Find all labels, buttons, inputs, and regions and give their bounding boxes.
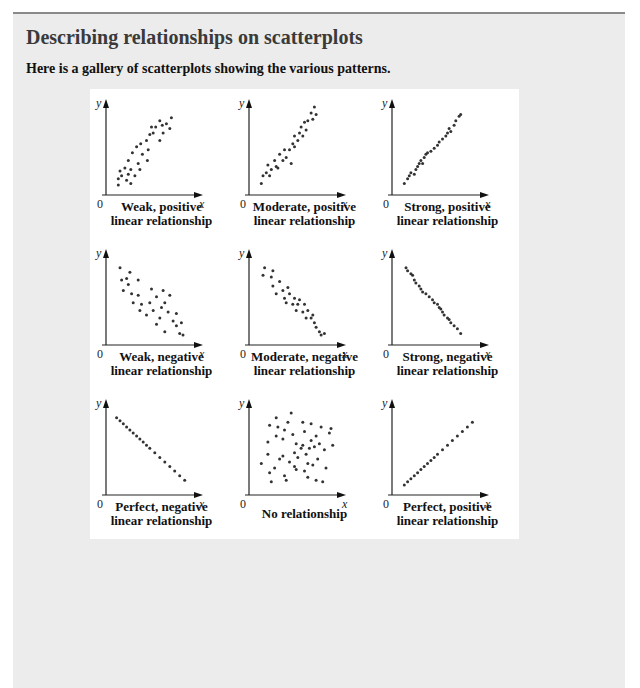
data-point <box>303 430 306 433</box>
scatterplot-caption: No relationship <box>233 507 376 521</box>
data-point <box>439 307 442 310</box>
data-point <box>147 148 150 151</box>
data-point <box>263 266 266 269</box>
y-axis-label: y <box>239 97 244 109</box>
data-point <box>448 318 451 321</box>
data-point <box>300 447 303 450</box>
data-point <box>175 324 178 327</box>
data-point <box>416 471 419 474</box>
data-point <box>260 182 263 185</box>
data-point <box>122 422 125 425</box>
data-point <box>421 162 424 165</box>
data-point <box>285 479 288 482</box>
data-point <box>131 151 134 154</box>
data-point <box>276 167 279 170</box>
data-point <box>413 173 416 176</box>
data-point <box>281 438 284 441</box>
data-point <box>145 314 148 317</box>
data-point <box>119 170 122 173</box>
data-point <box>431 298 434 301</box>
data-point <box>148 133 151 136</box>
data-point <box>321 480 324 483</box>
data-point <box>421 291 424 294</box>
y-axis-label: y <box>382 397 387 409</box>
data-point <box>154 125 157 128</box>
data-point <box>308 447 311 450</box>
data-point <box>150 125 153 128</box>
data-point <box>117 183 120 186</box>
data-point <box>161 124 164 127</box>
data-point <box>150 288 153 291</box>
data-point <box>315 479 318 482</box>
data-point <box>115 416 118 419</box>
data-point <box>148 301 151 304</box>
data-point <box>172 320 175 323</box>
data-point <box>141 153 144 156</box>
data-point <box>311 118 314 121</box>
y-axis-label: y <box>382 247 387 259</box>
scatterplot-caption: Moderate, positivelinear relationship <box>233 200 376 228</box>
data-point <box>290 412 293 415</box>
data-point <box>275 292 278 295</box>
data-point <box>306 462 309 465</box>
data-point <box>406 269 409 272</box>
data-point <box>429 150 432 153</box>
y-axis-arrow-icon <box>103 249 109 258</box>
data-point <box>268 471 271 474</box>
data-point <box>268 174 271 177</box>
data-point <box>273 467 276 470</box>
scatterplot-caption: Strong, negativelinear relationship <box>376 350 519 378</box>
scatterplot-no-relationship: yx0No relationship <box>233 389 376 539</box>
data-point <box>454 119 457 122</box>
caption-line: Strong, positive <box>376 200 519 214</box>
data-point <box>426 462 429 465</box>
data-point <box>303 303 306 306</box>
caption-line: Moderate, negative <box>233 350 376 364</box>
y-axis-label: y <box>96 397 101 409</box>
data-point <box>310 112 313 115</box>
data-point <box>170 116 173 119</box>
y-axis-arrow-icon <box>103 399 109 408</box>
data-point <box>276 425 279 428</box>
data-point <box>270 168 273 171</box>
data-point <box>305 453 308 456</box>
caption-line: linear relationship <box>90 214 233 228</box>
data-point <box>451 439 454 442</box>
data-point <box>183 479 186 482</box>
caption-line: Weak, negative <box>90 350 233 364</box>
data-point <box>414 282 417 285</box>
data-point <box>438 141 441 144</box>
data-point <box>119 266 122 269</box>
data-point <box>293 465 296 468</box>
data-point <box>433 301 436 304</box>
data-point <box>278 280 281 283</box>
data-point <box>148 447 151 450</box>
data-point <box>453 124 456 127</box>
data-point <box>135 435 138 438</box>
scatterplot-weak-negative: yx0Weak, negativelinear relationship <box>90 239 233 389</box>
data-point <box>320 333 323 336</box>
data-point <box>162 289 165 292</box>
y-axis-label: y <box>96 247 101 259</box>
caption-line: linear relationship <box>376 514 519 528</box>
data-point <box>311 314 314 317</box>
data-point <box>130 292 133 295</box>
caption-line: linear relationship <box>233 214 376 228</box>
data-point <box>138 438 141 441</box>
data-point <box>286 421 289 424</box>
data-point <box>270 275 273 278</box>
data-point <box>283 474 286 477</box>
data-point <box>323 332 326 335</box>
data-point <box>466 425 469 428</box>
caption-line: Perfect, positive <box>376 500 519 514</box>
data-point <box>138 168 141 171</box>
caption-line: Moderate, positive <box>233 200 376 214</box>
data-point <box>296 139 299 142</box>
data-point <box>301 311 304 314</box>
y-axis-arrow-icon <box>389 99 395 108</box>
intro-text: Here is a gallery of scatterplots showin… <box>26 61 390 77</box>
data-point <box>291 142 294 145</box>
data-point <box>291 303 294 306</box>
data-point <box>310 439 313 442</box>
data-point <box>128 428 131 431</box>
